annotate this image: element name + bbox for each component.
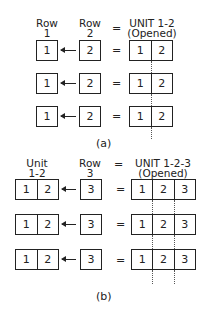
unit-cell: 2 <box>37 215 59 234</box>
row1-box: 1 <box>36 40 58 61</box>
unit-cell: 2 <box>37 180 59 199</box>
header-unit-1-2: UNIT 1-2 (Opened) <box>124 18 180 38</box>
arrow-left-icon <box>61 50 76 51</box>
caption-a: (a) <box>96 137 111 150</box>
row3-box: 3 <box>80 179 102 200</box>
row1-box: 1 <box>36 106 58 127</box>
header-unit12-line2: 1-2 <box>22 168 52 178</box>
fold-line <box>174 270 175 284</box>
unit-cell: 2 <box>151 107 173 126</box>
row2-value: 2 <box>80 74 100 93</box>
unit-cell: 1 <box>16 250 37 269</box>
row2-value: 2 <box>80 41 100 60</box>
unit-cell: 2 <box>37 250 59 269</box>
arrow-left-icon <box>62 189 76 190</box>
unit-cell: 1 <box>16 180 37 199</box>
unit-cell: 3 <box>174 215 195 234</box>
unit-cell: 1 <box>130 107 151 126</box>
unit-cell: 1 <box>132 250 152 269</box>
unit-1-2-3-box: 1 2 3 <box>131 179 196 200</box>
unit-cell: 1 <box>130 41 151 60</box>
fold-line <box>174 235 175 249</box>
row2-box: 2 <box>79 40 101 61</box>
row3-value: 3 <box>81 250 101 269</box>
arrow-left-icon <box>61 83 76 84</box>
unit-cell: 1 <box>130 74 151 93</box>
equals-sign: = <box>112 77 121 90</box>
caption-b: (b) <box>96 290 112 303</box>
arrow-left-icon <box>62 224 76 225</box>
equals-sign: = <box>116 183 125 196</box>
fold-line <box>174 200 175 214</box>
unit-1-2-3-box: 1 2 3 <box>131 249 196 270</box>
equals-sign: = <box>116 218 125 231</box>
unit-1-2-box: 1 2 <box>129 40 173 61</box>
header-row2-line2: 2 <box>76 28 104 38</box>
row1-box: 1 <box>36 73 58 94</box>
header-unit-1-2: Unit 1-2 <box>22 158 52 178</box>
unit-1-2-box: 1 2 <box>15 214 59 235</box>
row3-value: 3 <box>81 180 101 199</box>
row2-value: 2 <box>80 107 100 126</box>
header-row3-line2: 3 <box>76 168 104 178</box>
arrow-left-icon <box>62 259 76 260</box>
arrow-left-icon <box>61 116 76 117</box>
unit-1-2-box: 1 2 <box>129 73 173 94</box>
unit-cell: 1 <box>16 215 37 234</box>
unit-cell: 2 <box>152 180 173 199</box>
unit-1-2-box: 1 2 <box>15 249 59 270</box>
header-row1: Row 1 <box>33 18 61 38</box>
header-row1-line2: 1 <box>33 28 61 38</box>
equals-sign: = <box>112 110 121 123</box>
header-unit-1-2-3: UNIT 1-2-3 (Opened) <box>128 158 198 178</box>
row1-value: 1 <box>37 74 57 93</box>
header-unit-line2: (Opened) <box>124 28 180 38</box>
fold-line <box>151 127 152 139</box>
header-equals: = <box>114 158 123 171</box>
row1-value: 1 <box>37 107 57 126</box>
header-row3: Row 3 <box>76 158 104 178</box>
header-equals: = <box>112 22 121 35</box>
row1-value: 1 <box>37 41 57 60</box>
equals-sign: = <box>116 254 125 267</box>
unit-cell: 1 <box>132 180 152 199</box>
fold-line <box>152 235 153 249</box>
fold-line <box>151 94 152 106</box>
unit-cell: 2 <box>151 41 173 60</box>
unit-cell: 3 <box>174 250 195 269</box>
fold-line <box>152 270 153 284</box>
unit-cell: 2 <box>152 250 173 269</box>
unit-cell: 2 <box>151 74 173 93</box>
unit-cell: 3 <box>174 180 195 199</box>
unit-cell: 2 <box>152 215 173 234</box>
fold-line <box>152 200 153 214</box>
unit-1-2-box: 1 2 <box>129 106 173 127</box>
fold-line <box>151 61 152 73</box>
header-row2: Row 2 <box>76 18 104 38</box>
row3-box: 3 <box>80 249 102 270</box>
row3-value: 3 <box>81 215 101 234</box>
unit-1-2-3-box: 1 2 3 <box>131 214 196 235</box>
unit-cell: 1 <box>132 215 152 234</box>
row2-box: 2 <box>79 106 101 127</box>
row3-box: 3 <box>80 214 102 235</box>
row2-box: 2 <box>79 73 101 94</box>
equals-sign: = <box>112 44 121 57</box>
unit-1-2-box: 1 2 <box>15 179 59 200</box>
header-unit-line2: (Opened) <box>128 168 198 178</box>
